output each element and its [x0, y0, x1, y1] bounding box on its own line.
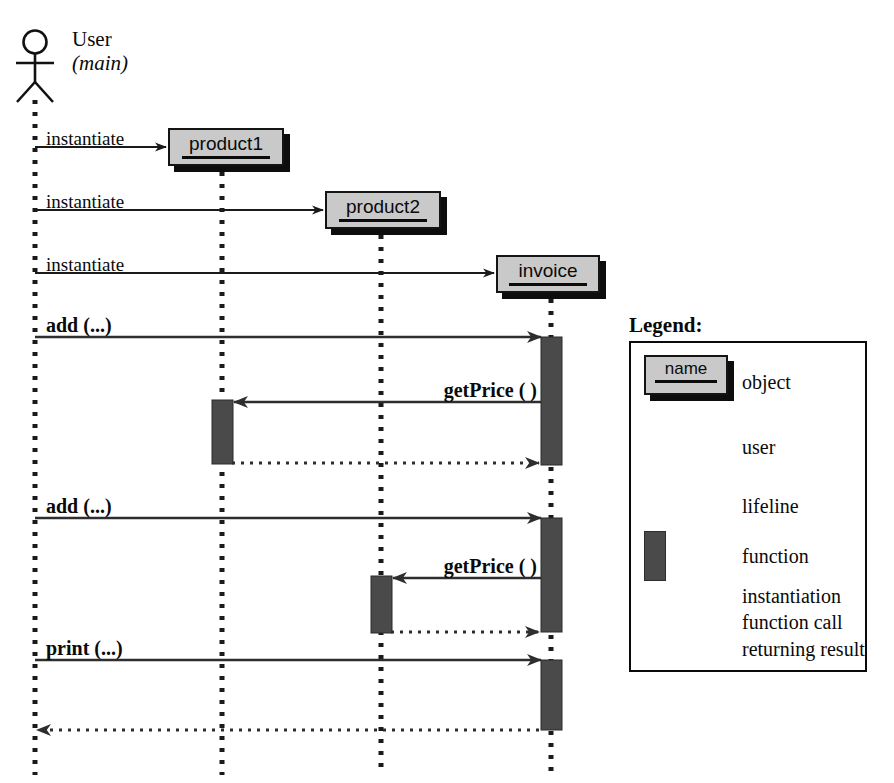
object-face-product1: product1: [168, 128, 284, 166]
legend-object-sample: name: [644, 355, 728, 395]
legend-label-instantiation: instantiation: [742, 586, 841, 606]
actor-label: User (main): [72, 28, 128, 75]
legend-label-returning-result: returning result: [742, 639, 865, 659]
object-face-product2: product2: [325, 191, 441, 229]
sequence-diagram-canvas: User (main) product1product2invoice inst…: [0, 0, 894, 783]
legend-label-function-call: function call: [742, 612, 843, 632]
activation-bar-invoice-0: [541, 337, 562, 465]
object-underline-invoice: [509, 283, 587, 286]
message-label-2: instantiate: [46, 255, 124, 274]
legend-label-user: user: [742, 437, 775, 457]
object-name-product2: product2: [346, 197, 420, 216]
legend-object-face: name: [644, 355, 728, 395]
legend-label-function: function: [742, 546, 809, 566]
object-box-product2[interactable]: product2: [325, 191, 441, 229]
object-underline-product2: [339, 219, 426, 222]
legend-activation-bar-sample: [644, 531, 666, 581]
message-label-7: getPrice ( ): [0, 556, 537, 576]
activation-bar-invoice-4: [541, 660, 562, 730]
legend-label-object: object: [742, 372, 791, 392]
legend-label-lifeline: lifeline: [742, 496, 799, 516]
object-box-product1[interactable]: product1: [168, 128, 284, 166]
actor-stereotype: (main): [72, 52, 128, 76]
object-box-invoice[interactable]: invoice: [496, 255, 600, 293]
actor-name: User: [72, 28, 128, 52]
activation-bar-invoice-2: [541, 518, 562, 632]
activation-bar-product1-1: [212, 400, 233, 464]
actor-stick-figure: [16, 31, 54, 103]
legend-object-name: name: [665, 360, 708, 377]
legend-object-underline: [655, 380, 717, 383]
object-underline-product1: [182, 156, 269, 159]
message-label-3: add (...): [46, 315, 112, 335]
legend-title: Legend:: [629, 313, 703, 338]
message-label-4: getPrice ( ): [0, 380, 537, 400]
object-face-invoice: invoice: [496, 255, 600, 293]
object-name-product1: product1: [189, 134, 263, 153]
object-name-invoice: invoice: [518, 261, 577, 280]
message-label-9: print (...): [46, 638, 123, 658]
message-label-0: instantiate: [46, 129, 124, 148]
activation-bar-product2-3: [371, 576, 392, 633]
message-label-1: instantiate: [46, 192, 124, 211]
message-label-6: add (...): [46, 496, 112, 516]
